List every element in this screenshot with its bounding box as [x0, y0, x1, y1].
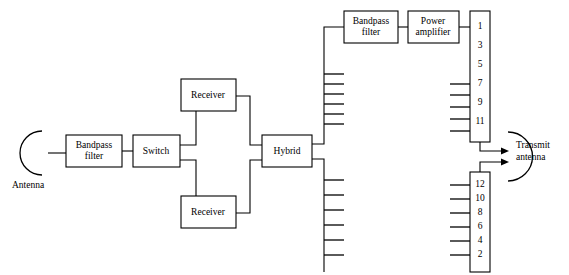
- bus-upper-stubs: [324, 74, 344, 124]
- arrowhead-even-array: [501, 159, 509, 166]
- port-array-even-port-8: 8: [478, 207, 483, 217]
- switch[interactable]: Switch: [133, 135, 180, 167]
- hybrid[interactable]: Hybrid: [262, 135, 312, 167]
- port-array-even-port-12: 12: [475, 179, 485, 189]
- wire-port-array-even-to-antenna: [480, 162, 501, 172]
- arrowhead-odd-array: [501, 148, 509, 155]
- receiver-bottom[interactable]: Receiver: [181, 196, 236, 228]
- switch-label: Switch: [143, 146, 170, 156]
- wire-switch-to-receiver-bottom: [180, 160, 196, 196]
- port-array-odd-port-3: 3: [478, 40, 483, 50]
- antenna-transmit: Transmit antenna: [508, 132, 550, 181]
- bandpass-filter-transmit-label-line2: filter: [362, 27, 381, 37]
- power-amplifier-label-line1: Power: [421, 16, 446, 26]
- antenna-receive: Antenna: [12, 131, 66, 190]
- bandpass-filter-receive[interactable]: Bandpass filter: [66, 135, 122, 167]
- wire-port-array-odd-to-antenna: [480, 142, 501, 151]
- wire-receiver-bottom-to-hybrid: [236, 160, 262, 213]
- receiver-top[interactable]: Receiver: [181, 79, 236, 111]
- receiver-top-label: Receiver: [191, 90, 226, 100]
- port-array-odd-port-9: 9: [478, 97, 483, 107]
- receiver-bottom-label: Receiver: [191, 207, 226, 217]
- port-array-even[interactable]: 12 10 8 6 4 2: [450, 172, 490, 272]
- antenna-receive-label: Antenna: [12, 180, 45, 190]
- wire-receiver-top-to-hybrid: [236, 96, 262, 145]
- port-array-even-port-4: 4: [478, 235, 483, 245]
- bus-lower-feedline: [312, 159, 324, 272]
- antenna-transmit-label-line2: antenna: [516, 152, 546, 162]
- bandpass-filter-receive-label-line1: Bandpass: [76, 140, 113, 150]
- hybrid-label: Hybrid: [274, 146, 301, 156]
- antenna-transmit-label-line1: Transmit: [516, 140, 550, 150]
- port-array-even-port-10: 10: [475, 193, 485, 203]
- port-array-even-port-2: 2: [478, 249, 483, 259]
- power-amplifier[interactable]: Power amplifier: [408, 11, 459, 43]
- bus-upper-feedline: [312, 27, 344, 144]
- port-array-odd-port-7: 7: [478, 78, 483, 88]
- bus-lower-stubs: [324, 180, 344, 255]
- port-array-odd-port-11: 11: [475, 116, 484, 126]
- port-array-even-port-6: 6: [478, 221, 483, 231]
- bandpass-filter-transmit[interactable]: Bandpass filter: [344, 11, 398, 43]
- antenna-receive-arc: [20, 131, 42, 175]
- wire-switch-to-receiver-top: [180, 111, 196, 145]
- diagram-svg: Antenna Bandpass filter Switch Receiver …: [0, 0, 569, 275]
- port-array-odd-port-1: 1: [478, 21, 483, 31]
- bandpass-filter-receive-label-line2: filter: [85, 151, 104, 161]
- bandpass-filter-transmit-label-line1: Bandpass: [353, 16, 390, 26]
- block-diagram-canvas: Antenna Bandpass filter Switch Receiver …: [0, 0, 569, 275]
- port-array-odd-port-5: 5: [478, 59, 483, 69]
- power-amplifier-label-line2: amplifier: [416, 27, 452, 37]
